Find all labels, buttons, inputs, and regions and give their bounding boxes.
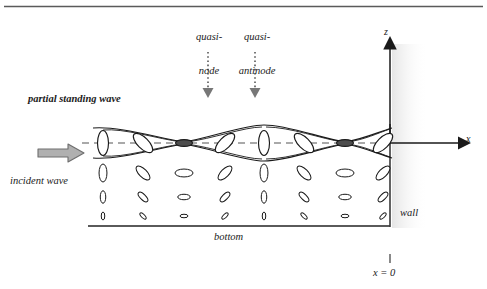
orbit-ellipse-r3-c5 xyxy=(300,212,308,220)
orbit-ellipse-r3-c7 xyxy=(379,212,387,220)
incident-wave-arrow xyxy=(38,144,84,162)
orbit-ellipse-r1-c4 xyxy=(260,164,268,182)
label-incident-wave: incident wave xyxy=(10,175,68,186)
orbit-ellipse-r2-c1 xyxy=(137,191,150,204)
orbit-ellipse-r0-c4 xyxy=(259,131,270,156)
orbit-ellipse-r1-c0 xyxy=(99,164,107,182)
orbit-ellipse-r3-c3 xyxy=(221,212,229,220)
orbit-ellipse-r0-c0 xyxy=(98,131,109,156)
orbit-ellipse-r1-c2 xyxy=(175,169,193,177)
label-quasi-antinode-line2: antinode xyxy=(226,65,288,76)
orbit-ellipse-r1-c6 xyxy=(336,169,354,177)
orbit-ellipse-r3-c4 xyxy=(262,212,266,220)
orbit-ellipse-r2-c0 xyxy=(100,191,106,204)
orbit-ellipse-r2-c3 xyxy=(219,191,232,204)
orbit-ellipse-r2-c6 xyxy=(339,194,352,200)
orbit-ellipse-r2-c7 xyxy=(377,191,390,204)
figure-partial-standing-wave: quasi- node quasi- antinode partial stan… xyxy=(0,0,487,289)
label-partial-standing-wave: partial standing wave xyxy=(28,93,121,104)
orbit-ellipse-r2-c4 xyxy=(261,191,267,204)
label-quasi-antinode-line1: quasi- xyxy=(226,31,288,42)
label-axis-z: z xyxy=(384,27,388,38)
orbit-ellipse-r3-c2 xyxy=(180,214,188,218)
orbit-ellipse-r1-c3 xyxy=(216,164,234,182)
orbit-ellipse-r3-c6 xyxy=(341,214,349,218)
label-axis-x: x xyxy=(466,134,470,145)
orbit-ellipse-r3-c1 xyxy=(139,212,147,220)
label-bottom: bottom xyxy=(214,231,243,242)
orbit-ellipse-r3-c0 xyxy=(101,212,105,220)
orbit-ellipse-r1-c5 xyxy=(295,164,313,182)
wall-shade xyxy=(392,44,428,228)
orbit-ellipse-r2-c5 xyxy=(298,191,311,204)
orbit-ellipse-r2-c2 xyxy=(178,194,191,200)
label-wall: wall xyxy=(400,207,418,218)
orbit-ellipse-r1-c1 xyxy=(134,164,152,182)
label-quasi-antinode: quasi- antinode xyxy=(226,8,288,99)
label-x-origin: x = 0 xyxy=(373,267,395,278)
